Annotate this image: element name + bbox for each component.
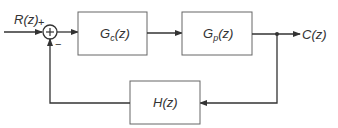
minus-sign: − — [55, 38, 61, 50]
block-diagram: R(z) + − Gc(z) Gp(z) C(z) H(z) — [0, 0, 338, 128]
plus-sign: + — [38, 16, 44, 28]
controller-label: Gc(z) — [100, 26, 130, 43]
feedback-label: H(z) — [153, 95, 178, 110]
output-label: C(z) — [302, 27, 327, 42]
plant-block: Gp(z) — [182, 12, 252, 55]
summing-junction — [43, 25, 57, 39]
controller-block: Gc(z) — [78, 12, 147, 55]
feedback-block: H(z) — [130, 81, 200, 124]
input-label: R(z) — [14, 12, 39, 27]
plant-label: Gp(z) — [203, 26, 233, 43]
